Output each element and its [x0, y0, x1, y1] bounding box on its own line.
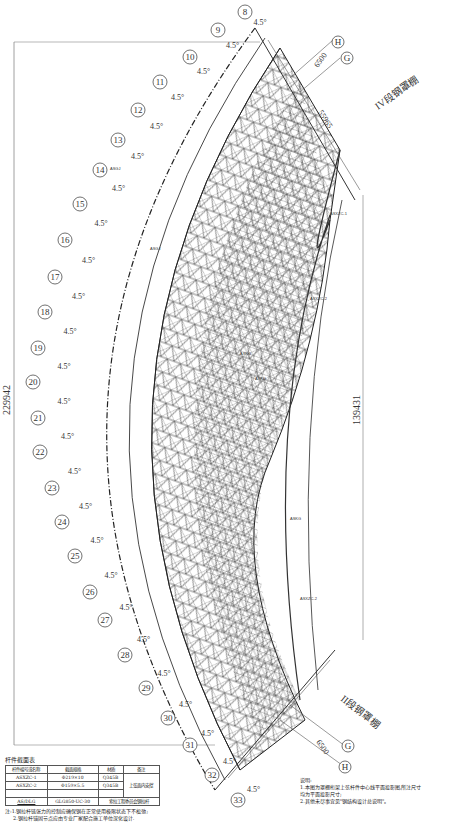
svg-text:4.5°: 4.5°: [58, 362, 71, 371]
svg-text:4.5°: 4.5°: [58, 397, 71, 406]
member-table-title: 杆件截面表: [5, 755, 160, 764]
svg-text:13: 13: [114, 135, 124, 145]
svg-text:ASKG: ASKG: [240, 351, 251, 356]
svg-text:23: 23: [48, 483, 58, 493]
roof-truss-plan-drawing: 229942 139431 55965 H G 6500 G H 6500: [0, 0, 459, 826]
svg-text:28: 28: [121, 650, 131, 660]
svg-text:4.5°: 4.5°: [254, 18, 267, 27]
svg-text:ASXZC-2: ASXZC-2: [310, 296, 328, 301]
svg-text:4.5°: 4.5°: [171, 93, 184, 102]
svg-text:ASXZC-1: ASXZC-1: [330, 211, 348, 216]
svg-text:4.5°: 4.5°: [112, 184, 125, 193]
svg-text:ASKG: ASKG: [290, 516, 301, 521]
svg-text:25: 25: [71, 551, 81, 561]
svg-text:32: 32: [208, 770, 217, 780]
svg-text:ASGJ: ASGJ: [110, 166, 120, 171]
svg-text:4.5°: 4.5°: [95, 219, 108, 228]
table-notes: 注:1.钢拉杆链张力的控制应确保钢在正常使用极限状态下不松弛; 2.钢拉杆锚固节…: [5, 808, 225, 822]
svg-text:4.5°: 4.5°: [179, 700, 192, 709]
svg-text:24: 24: [58, 517, 68, 527]
table-header-row: 杆件编号或名称 截面规格 材质 备注: [6, 766, 160, 774]
svg-text:4.5°: 4.5°: [201, 729, 214, 738]
svg-text:18: 18: [41, 307, 51, 317]
svg-text:27: 27: [101, 615, 111, 625]
svg-text:33: 33: [234, 795, 244, 805]
svg-text:17: 17: [51, 272, 61, 282]
svg-text:ASXZC-2: ASXZC-2: [300, 596, 318, 601]
member-section-table: 杆件截面表 杆件编号或名称 截面规格 材质 备注 ASXZC-1 Φ219×10…: [5, 755, 160, 806]
svg-text:H: H: [335, 37, 342, 47]
svg-text:29: 29: [142, 683, 152, 693]
svg-text:4.5°: 4.5°: [79, 502, 92, 511]
svg-text:4.5°: 4.5°: [82, 256, 95, 265]
svg-text:6500: 6500: [312, 51, 329, 69]
svg-text:4.5°: 4.5°: [158, 669, 171, 678]
svg-text:4.5°: 4.5°: [247, 785, 260, 794]
svg-text:4.5°: 4.5°: [64, 327, 77, 336]
table-row: ASXZC-1 Φ219×10 Q345B 上弦面内支撑: [6, 774, 160, 782]
svg-text:4.5°: 4.5°: [226, 41, 239, 50]
svg-text:10: 10: [186, 52, 196, 62]
svg-text:H: H: [342, 762, 349, 772]
svg-text:ASKG: ASKG: [255, 376, 266, 381]
svg-text:4.5°: 4.5°: [91, 536, 104, 545]
svg-text:31: 31: [186, 740, 195, 750]
svg-text:4.5°: 4.5°: [150, 122, 163, 131]
svg-text:G: G: [344, 53, 351, 63]
svg-text:G: G: [345, 741, 352, 751]
svg-text:4.5°: 4.5°: [197, 67, 210, 76]
svg-text:22: 22: [36, 447, 45, 457]
svg-text:4.5°: 4.5°: [105, 571, 118, 580]
svg-text:4.5°: 4.5°: [120, 603, 133, 612]
section-label-upper: IV段钢罩棚: [372, 73, 420, 112]
svg-text:11: 11: [156, 77, 165, 87]
left-dim-text: 229942: [1, 385, 12, 415]
svg-text:4.5°: 4.5°: [137, 635, 150, 644]
svg-text:12: 12: [134, 105, 143, 115]
drawing-notes: 说明: 1.本图为罩棚桁架上弦杆件中心线平面投影图,所注尺寸 均为平面投影尺寸;…: [300, 777, 455, 805]
svg-text:15: 15: [76, 199, 86, 209]
svg-text:26: 26: [86, 587, 96, 597]
svg-text:9: 9: [216, 25, 221, 35]
svg-text:6500: 6500: [314, 738, 331, 756]
svg-text:20: 20: [29, 377, 39, 387]
svg-text:30: 30: [164, 713, 174, 723]
section-label-lower: II段钢罩棚: [339, 692, 383, 730]
right-dim-text: 139431: [351, 395, 362, 425]
svg-text:19: 19: [34, 343, 44, 353]
table-row: AS/DLG GLG850-UC-30 索拉工程委员会钢拉杆: [6, 798, 160, 806]
svg-text:4.5°: 4.5°: [72, 292, 85, 301]
svg-text:8: 8: [243, 7, 248, 17]
svg-text:ASGJ: ASGJ: [150, 246, 160, 251]
svg-text:21: 21: [34, 413, 43, 423]
overall-dimension-right: 139431: [351, 195, 363, 640]
svg-text:14: 14: [96, 165, 106, 175]
svg-text:4.5°: 4.5°: [223, 757, 236, 766]
svg-text:16: 16: [61, 235, 71, 245]
svg-text:4.5°: 4.5°: [61, 432, 74, 441]
svg-text:4.5°: 4.5°: [131, 152, 144, 161]
svg-text:4.5°: 4.5°: [68, 467, 81, 476]
